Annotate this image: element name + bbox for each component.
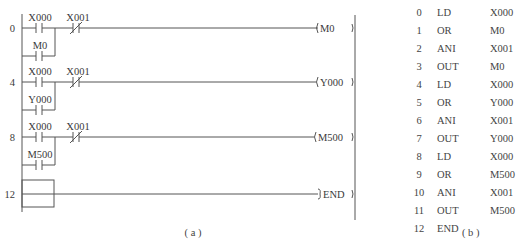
instruction-operand: Y000 [490,94,513,112]
rung-12-end: 12 END [5,180,345,207]
instruction-operand: M0 [490,58,505,76]
contact-label: X000 [28,66,51,77]
instruction-op: ANI [437,184,456,202]
contact-label: X000 [28,12,51,23]
rung-8: 8 X000 M500 X001 M500 [10,121,343,170]
ladder-caption: ( a ) [185,227,202,239]
instruction-operand: X001 [490,40,513,58]
instruction-operand: Y000 [490,130,513,148]
instruction-row: 6ANIX001 [400,112,530,130]
instruction-op: OR [437,166,452,184]
nc-contact-label: X001 [66,66,89,77]
ladder-diagram: 0 X000 M0 X001 M0 4 X000 Y [0,0,400,249]
instruction-row: 0LDX000 [400,4,530,22]
instruction-op: OUT [437,130,459,148]
instruction-operand: M0 [490,22,505,40]
instruction-op: OR [437,94,452,112]
step-number: 2 [400,40,438,58]
instruction-operand: X000 [490,76,513,94]
instruction-row: 9ORM500 [400,166,530,184]
nc-contact-label: X001 [66,12,89,23]
instruction-row: 11OUTM500 [400,202,530,220]
contact-label: X000 [28,121,51,132]
branch-contact-label: Y000 [28,94,51,105]
instruction-row: 10ANIX001 [400,184,530,202]
step-number: 7 [400,130,438,148]
instruction-op: LD [437,4,451,22]
instruction-op: END [437,220,459,238]
instruction-row: 7OUTY000 [400,130,530,148]
step-number: 12 [5,189,16,200]
instruction-operand: X000 [490,4,513,22]
instruction-row: 2ANIX001 [400,40,530,58]
coil-icon [315,132,317,142]
instruction-op: OUT [437,202,459,220]
instruction-operand: M500 [490,202,515,220]
step-number: 5 [400,94,438,112]
step-number: 4 [400,76,438,94]
step-number: 3 [400,58,438,76]
instruction-op: LD [437,148,451,166]
instruction-operand: X001 [490,184,513,202]
instruction-row: 3OUTM0 [400,58,530,76]
step-number: 0 [10,23,15,34]
instruction-op: LD [437,76,451,94]
nc-contact-label: X001 [66,121,89,132]
instruction-list: 0LDX000 1ORM0 2ANIX001 3OUTM0 4LDX000 5O… [400,4,530,238]
instruction-op: OUT [437,58,459,76]
instruction-op: ANI [437,40,456,58]
coil-label: Y000 [320,77,343,88]
step-number: 1 [400,22,438,40]
instruction-row: 5ORY000 [400,94,530,112]
step-number: 8 [10,132,15,143]
instruction-op: ANI [437,112,456,130]
step-number: 10 [400,184,438,202]
branch-contact-label: M0 [33,40,48,51]
instruction-row: 8LDX000 [400,148,530,166]
step-number: 4 [10,77,16,88]
instruction-operand: M500 [490,166,515,184]
end-bracket-icon [318,189,320,199]
coil-label: M500 [318,132,343,143]
step-number: 12 [400,220,438,238]
coil-icon [317,77,319,87]
step-number: 8 [400,148,438,166]
instruction-list-caption: ( b ) [462,227,480,238]
step-number: 11 [400,202,438,220]
step-number: 9 [400,166,438,184]
coil-label: M0 [320,23,335,34]
instruction-operand: X001 [490,112,513,130]
end-instruction-label: END [323,189,345,200]
step-number: 6 [400,112,438,130]
instruction-row: 4LDX000 [400,76,530,94]
step-number: 0 [400,4,438,22]
instruction-row: 1ORM0 [400,22,530,40]
instruction-op: OR [437,22,452,40]
instruction-operand: X000 [490,148,513,166]
rung-0: 0 X000 M0 X001 M0 [10,12,335,61]
rung-4: 4 X000 Y000 X001 Y000 [10,66,344,115]
branch-contact-label: M500 [27,149,52,160]
